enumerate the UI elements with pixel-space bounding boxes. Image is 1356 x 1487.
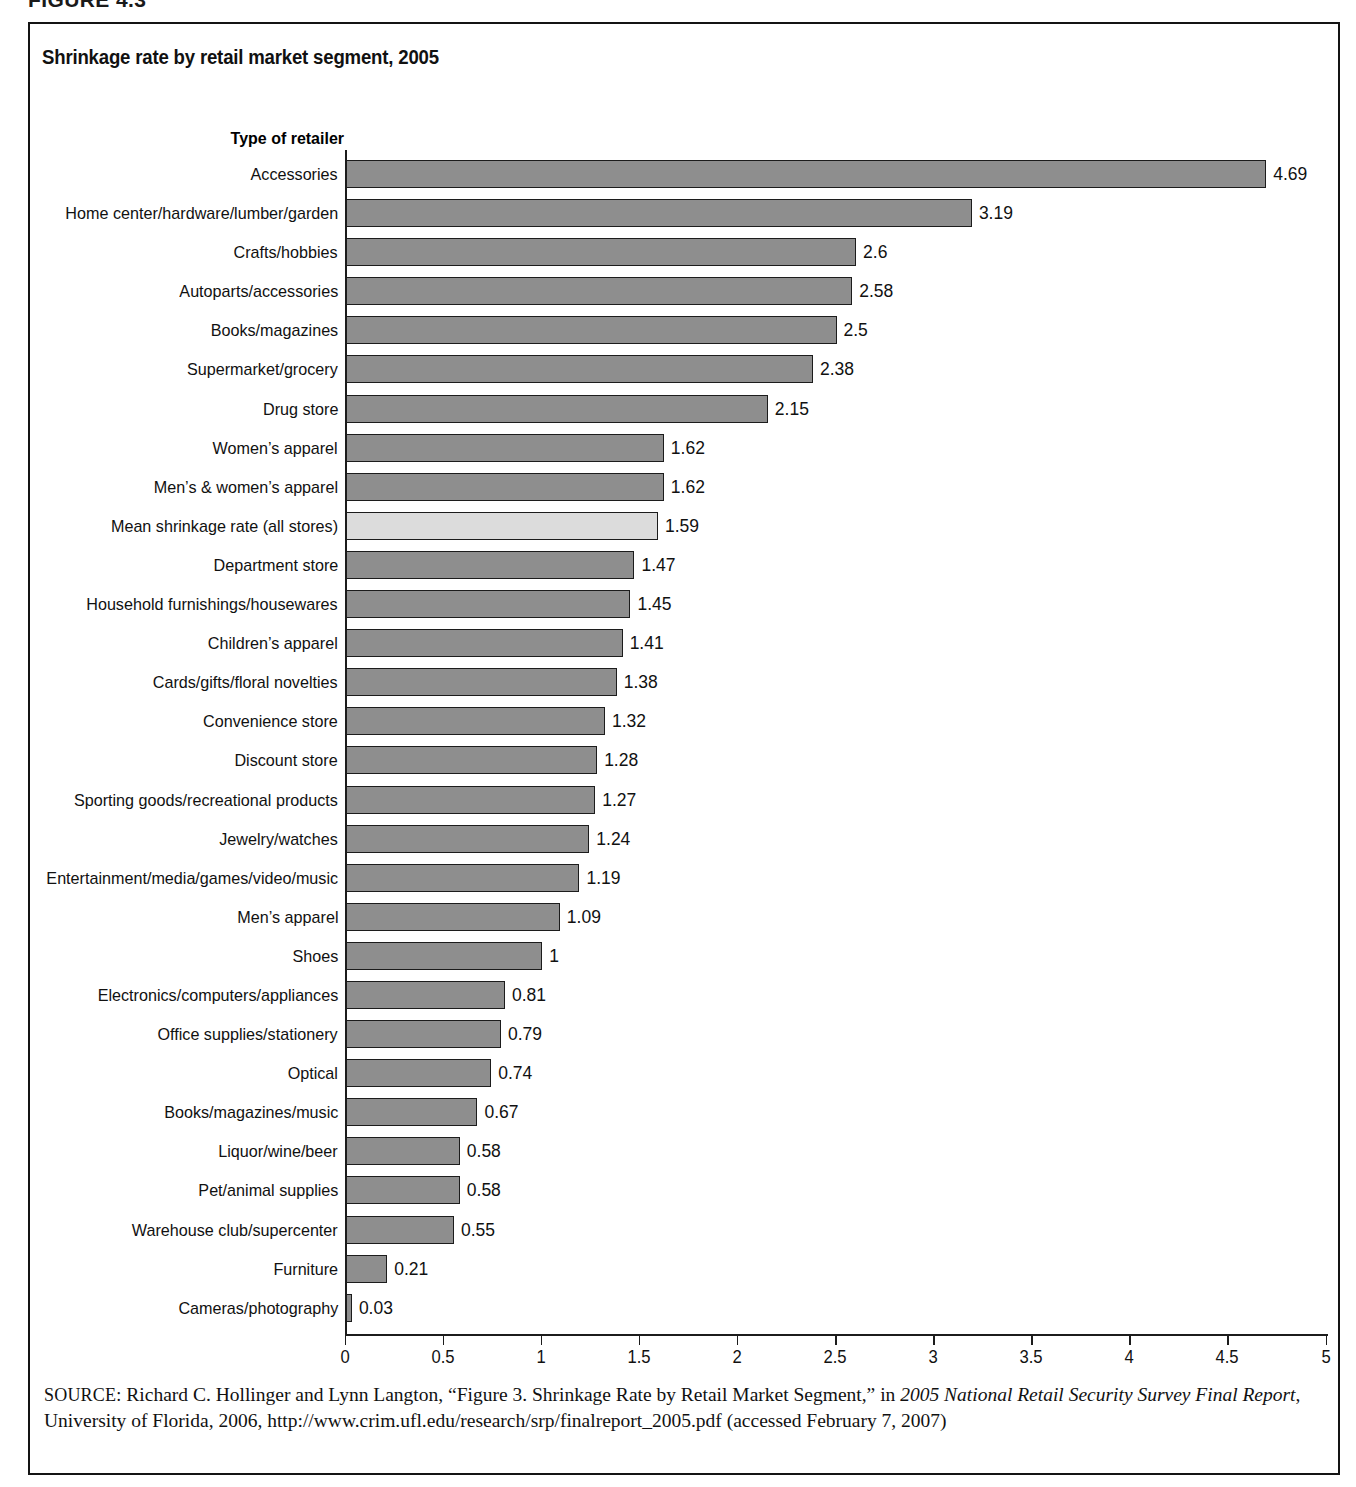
bar-value-label: 1.45 (630, 585, 671, 624)
bar-category-label: Books/magazines (211, 311, 338, 350)
bar-value-label: 2.58 (852, 272, 893, 311)
bar-value-label: 1.62 (664, 429, 705, 468)
x-axis-line: 00.511.522.533.544.55 (345, 1334, 1328, 1336)
bar (346, 434, 664, 462)
bar-row: Men’s & women’s apparel1.62 (30, 468, 1342, 507)
bar-row: Autoparts/accessories2.58 (30, 272, 1342, 311)
x-axis-tick-label: 2 (732, 1347, 741, 1368)
x-axis-tick-label: 1.5 (627, 1347, 650, 1368)
bar-track: 1.62 (346, 429, 1342, 468)
bar-row: Pet/animal supplies0.58 (30, 1171, 1342, 1210)
bar (346, 1255, 387, 1283)
x-axis-tick (737, 1334, 739, 1345)
bar-track: 0.79 (346, 1015, 1342, 1054)
bar-track: 1.47 (346, 546, 1342, 585)
bar (346, 590, 630, 618)
bar-row: Discount store1.28 (30, 741, 1342, 780)
bar (346, 707, 605, 735)
bar-category-label: Household furnishings/housewares (87, 585, 338, 624)
bar-value-label: 1 (542, 937, 559, 976)
bar-category-label: Autoparts/accessories (179, 272, 338, 311)
bar-row: Books/magazines2.5 (30, 311, 1342, 350)
bar-row: Sporting goods/recreational products1.27 (30, 781, 1342, 820)
bar-value-label: 1.09 (560, 898, 601, 937)
x-axis-tick-label: 1 (536, 1347, 545, 1368)
bar-row: Books/magazines/music0.67 (30, 1093, 1342, 1132)
x-axis-tick (1227, 1334, 1229, 1345)
bar-category-label: Accessories (251, 155, 338, 194)
x-axis-tick-label: 5 (1321, 1347, 1330, 1368)
bar (346, 864, 579, 892)
bar (346, 355, 813, 383)
bar-track: 0.21 (346, 1250, 1342, 1289)
bar-track: 3.19 (346, 194, 1342, 233)
bar-track: 0.03 (346, 1289, 1342, 1328)
bar (346, 551, 634, 579)
bar-track: 1.38 (346, 663, 1342, 702)
bar-category-label: Men’s apparel (237, 898, 338, 937)
bar-track: 0.58 (346, 1132, 1342, 1171)
bar (346, 981, 505, 1009)
bar-category-label: Department store (213, 546, 338, 585)
bar-category-label: Discount store (235, 741, 338, 780)
bar-row: Shoes1 (30, 937, 1342, 976)
x-axis-tick (1031, 1334, 1033, 1345)
bar-track: 1.27 (346, 781, 1342, 820)
x-axis-tick-label: 3 (928, 1347, 937, 1368)
bar (346, 942, 542, 970)
source-label: SOURCE: (44, 1385, 121, 1405)
category-axis-header: Type of retailer (49, 129, 344, 149)
bar-category-label: Cards/gifts/floral novelties (153, 663, 338, 702)
bar-value-label: 0.58 (460, 1171, 501, 1210)
bar (346, 668, 617, 696)
bar (346, 316, 837, 344)
bar-track: 1.28 (346, 741, 1342, 780)
bar-row: Women’s apparel1.62 (30, 429, 1342, 468)
x-axis-tick (1129, 1334, 1131, 1345)
x-axis-tick-label: 4.5 (1216, 1347, 1239, 1368)
bar-row: Cards/gifts/floral novelties1.38 (30, 663, 1342, 702)
bar-category-label: Children’s apparel (208, 624, 338, 663)
bar (346, 903, 560, 931)
bar (346, 1176, 460, 1204)
bar-category-label: Liquor/wine/beer (219, 1132, 338, 1171)
x-axis-tick (443, 1334, 445, 1345)
bar-category-label: Warehouse club/supercenter (132, 1211, 338, 1250)
bar-row: Warehouse club/supercenter0.55 (30, 1211, 1342, 1250)
x-axis-tick (835, 1334, 837, 1345)
bar-value-label: 0.55 (454, 1211, 495, 1250)
bar-value-label: 1.47 (634, 546, 675, 585)
bar-value-label: 1.32 (605, 702, 646, 741)
bar-track: 1.41 (346, 624, 1342, 663)
bar-track: 1.59 (346, 507, 1342, 546)
bar-category-label: Women’s apparel (213, 429, 338, 468)
bar (346, 1059, 491, 1087)
bar-value-label: 1.38 (617, 663, 658, 702)
bar-category-label: Men’s & women’s apparel (154, 468, 338, 507)
bar (346, 277, 852, 305)
bar-value-label: 1.28 (597, 741, 638, 780)
source-text-1: Richard C. Hollinger and Lynn Langton, “… (121, 1384, 900, 1405)
bar-row: Drug store2.15 (30, 390, 1342, 429)
bar-value-label: 0.81 (505, 976, 546, 1015)
bar (346, 395, 768, 423)
bar (346, 199, 972, 227)
bar-category-label: Mean shrinkage rate (all stores) (111, 507, 338, 546)
bar-category-label: Pet/animal supplies (198, 1171, 338, 1210)
bar-category-label: Shoes (292, 937, 338, 976)
bar-row: Mean shrinkage rate (all stores)1.59 (30, 507, 1342, 546)
x-axis-tick-label: 4 (1125, 1347, 1134, 1368)
figure-number-label: FIGURE 4.3 (28, 0, 146, 12)
bar-track: 2.38 (346, 350, 1342, 389)
bar (346, 473, 664, 501)
bar-row: Entertainment/media/games/video/music1.1… (30, 859, 1342, 898)
bar (346, 825, 589, 853)
bar-value-label: 0.74 (491, 1054, 532, 1093)
bar-category-label: Drug store (263, 390, 338, 429)
bar-row: Crafts/hobbies2.6 (30, 233, 1342, 272)
bar-category-label: Supermarket/grocery (187, 350, 338, 389)
bar (346, 1020, 501, 1048)
bar-category-label: Office supplies/stationery (158, 1015, 338, 1054)
bar-track: 2.6 (346, 233, 1342, 272)
x-axis-tick-label: 2.5 (823, 1347, 846, 1368)
